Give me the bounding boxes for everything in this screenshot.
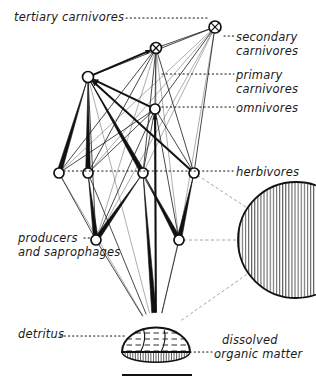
node-R1 <box>91 235 101 245</box>
link-H2-P1 <box>86 82 91 169</box>
label-primary: primary <box>236 69 282 82</box>
link-D1-O1 <box>155 114 156 313</box>
node-group <box>54 21 221 245</box>
label-detritus: detritus <box>18 328 64 341</box>
link-D1-H3 <box>143 177 156 312</box>
link-P1-S1 <box>92 50 152 75</box>
link-D1-R2 <box>162 244 178 313</box>
node-R2 <box>174 235 184 245</box>
link-H2-S1 <box>90 52 154 169</box>
link-O1-P1 <box>92 79 151 107</box>
link-R2-S1 <box>157 53 179 236</box>
detritus-dome <box>122 328 190 363</box>
node-H2 <box>83 168 93 178</box>
link-H4-O1 <box>157 113 192 170</box>
node-H4 <box>189 168 199 178</box>
label-secondary: secondary <box>236 31 297 44</box>
label-tertiary-carnivores: tertiary carnivores <box>14 11 124 24</box>
label-and-saprophages: and saprophages <box>18 246 120 259</box>
node-O1 <box>150 104 160 114</box>
dissolved-organic-matter-reservoir <box>238 182 316 298</box>
label-herbivores: herbivores <box>236 166 299 179</box>
label-producers: producers <box>18 232 78 245</box>
link-H4-T1 <box>195 32 215 169</box>
node-H1 <box>54 168 64 178</box>
label-primary-carnivores: carnivores <box>236 83 298 96</box>
link-R2-H3 <box>145 177 179 238</box>
node-H3 <box>138 168 148 178</box>
link-R2-T1 <box>180 32 214 236</box>
label-secondary-carnivores: carnivores <box>236 45 298 58</box>
label-dissolved: dissolved <box>222 334 278 347</box>
detritus-dome-shape <box>122 328 190 352</box>
link-R1-H3 <box>96 177 140 239</box>
label-organic-matter: organic matter <box>214 348 302 361</box>
food-web-figure: tertiary carnivores secondary carnivores… <box>0 0 316 389</box>
node-P1 <box>83 72 94 83</box>
label-omnivores: omnivores <box>236 102 298 115</box>
link-H1-P1 <box>58 82 87 170</box>
dom-circle <box>238 182 316 298</box>
